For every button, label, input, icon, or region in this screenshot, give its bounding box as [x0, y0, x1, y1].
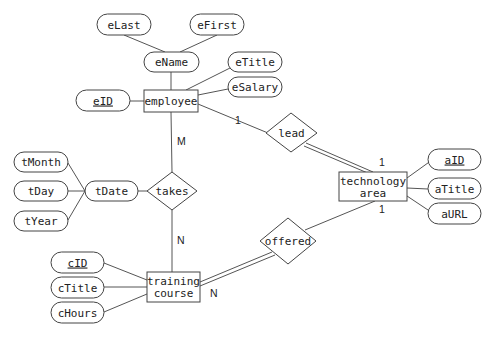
line-offered-training-b [200, 255, 275, 286]
entity-training-course: training course [147, 272, 200, 302]
line-tech-aurl [407, 196, 431, 212]
key-attribute-label: eID [93, 95, 113, 108]
cardinality-offered-training: N [210, 287, 218, 299]
line-tyear-tdate [68, 191, 85, 220]
attribute-label: eLast [107, 19, 140, 32]
attribute-cid: cID [51, 252, 104, 273]
attribute-label: aTitle [435, 183, 475, 196]
relationship-lead: lead [266, 113, 317, 152]
relationship-label: takes [155, 185, 188, 198]
cardinality-takes-training: N [177, 234, 185, 246]
attribute-etitle: eTitle [228, 52, 282, 72]
line-efirst-ename [180, 35, 217, 52]
line-tech-offered [305, 201, 375, 230]
attribute-ename: eName [144, 52, 199, 72]
line-offered-training-a [200, 252, 272, 282]
attribute-tdate: tDate [85, 181, 138, 201]
attribute-label: eSalary [232, 81, 279, 94]
attribute-ctitle: cTitle [51, 277, 104, 298]
attribute-label: tYear [24, 215, 57, 228]
cardinality-lead-technology: 1 [379, 156, 385, 168]
attribute-chours: cHours [51, 302, 104, 323]
attribute-label: eName [155, 56, 188, 69]
attribute-tday: tDay [14, 181, 68, 201]
attribute-tyear: tYear [14, 211, 68, 231]
line-lead-tech-b [304, 146, 370, 174]
cardinality-offered-technology: 1 [379, 203, 385, 215]
line-tech-atitle [407, 188, 428, 189]
entity-technology-area: technology area [339, 172, 407, 201]
attribute-elast: eLast [97, 14, 151, 35]
attribute-atitle: aTitle [428, 178, 481, 199]
cardinality-employee-lead: 1 [235, 114, 241, 126]
entity-label: area [360, 187, 387, 200]
cardinality-employee-takes: M [177, 135, 186, 147]
er-diagram: eLast eFirst eName eTitle eSalary eID tM… [0, 0, 498, 337]
key-attribute-label: aID [445, 154, 465, 167]
attribute-label: eTitle [235, 56, 275, 69]
key-attribute-label: cID [68, 257, 88, 270]
attribute-label: tDay [28, 185, 55, 198]
relationship-label: lead [278, 127, 305, 140]
attribute-label: eFirst [197, 19, 237, 32]
attribute-esalary: eSalary [228, 77, 282, 97]
relationship-offered: offered [260, 218, 316, 264]
attribute-eid: eID [76, 90, 130, 111]
line-employee-takes [171, 112, 172, 172]
entity-employee: employee [144, 90, 198, 112]
attribute-label: aURL [441, 208, 468, 221]
entity-label: course [154, 287, 194, 300]
entity-label: employee [145, 95, 198, 108]
attribute-label: cHours [58, 307, 98, 320]
line-lead-tech-a [306, 143, 373, 172]
attribute-efirst: eFirst [190, 14, 244, 35]
attribute-aid: aID [428, 149, 481, 170]
attribute-tmonth: tMonth [14, 152, 68, 172]
relationship-takes: takes [147, 172, 197, 210]
line-esalary-employee [198, 89, 228, 95]
attribute-label: tDate [95, 185, 128, 198]
line-chours-training [104, 294, 147, 312]
relationship-label: offered [265, 235, 311, 248]
attribute-label: tMonth [21, 156, 61, 169]
attribute-aurl: aURL [428, 203, 481, 224]
line-tmonth-tdate [68, 163, 85, 191]
line-cid-training [104, 263, 147, 280]
line-employee-lead [198, 104, 268, 133]
attribute-label: cTitle [58, 282, 98, 295]
line-elast-ename [124, 35, 165, 52]
